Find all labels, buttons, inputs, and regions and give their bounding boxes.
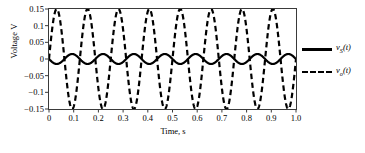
x-axis-label: Time, s — [48, 126, 298, 136]
x-tick-label: 0.1 — [68, 113, 79, 123]
figure-container: Voltage V 0.150.10.050−0.05−0.1−0.15 Tim… — [0, 0, 365, 153]
x-tick-label: 0.2 — [93, 113, 104, 123]
plot-area — [48, 8, 297, 110]
x-tick-label: 0.3 — [118, 113, 129, 123]
legend-label-vo-tail: (t) — [343, 65, 351, 75]
x-tick-label: 1.0 — [291, 113, 302, 123]
legend-label-vs-tail: (t) — [343, 42, 351, 52]
y-tick-label: 0 — [40, 54, 44, 64]
x-tick-label: 0.5 — [167, 113, 178, 123]
legend-item-vs: vS(t) — [302, 42, 364, 56]
x-tick-label: 0 — [47, 113, 51, 123]
x-tick-label: 0.6 — [192, 113, 203, 123]
y-tick-label: 0.05 — [29, 37, 44, 47]
x-tick-label: 0.7 — [217, 113, 228, 123]
legend-label-vs: vS(t) — [336, 42, 351, 54]
legend-line-solid-icon — [302, 48, 332, 51]
legend-line-dashed-icon — [302, 71, 332, 73]
x-tick-label: 0.8 — [241, 113, 252, 123]
legend-item-vo: vo(t) — [302, 65, 364, 79]
y-tick-label: −0.05 — [24, 71, 44, 81]
x-tick-label: 0.4 — [142, 113, 153, 123]
y-tick-label: 0.1 — [33, 21, 44, 31]
y-tick-label: −0.15 — [24, 104, 44, 114]
legend-label-vo: vo(t) — [336, 65, 351, 77]
x-tick-label: 0.9 — [266, 113, 277, 123]
y-axis-tick-labels: 0.150.10.050−0.05−0.1−0.15 — [4, 0, 44, 153]
y-tick-label: 0.15 — [29, 4, 44, 14]
legend: vS(t) vo(t) — [302, 42, 364, 84]
y-tick-label: −0.1 — [29, 87, 44, 97]
waveform-plot — [49, 9, 296, 109]
